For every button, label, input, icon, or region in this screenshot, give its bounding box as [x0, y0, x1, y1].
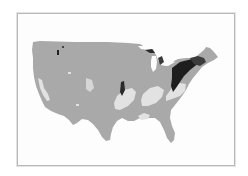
region-dark-spot — [62, 46, 64, 48]
region-dark-montana — [57, 50, 59, 55]
region-light-spot-2 — [76, 104, 79, 106]
region-light-spot-1 — [68, 72, 71, 74]
us-choropleth-map — [0, 0, 248, 176]
